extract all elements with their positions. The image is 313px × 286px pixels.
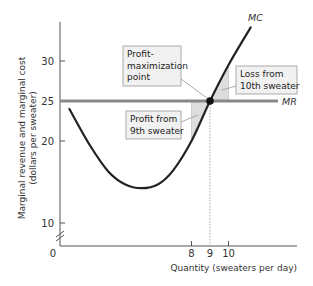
y-axis-title: Marginal revenue and marginal cost (doll… xyxy=(17,56,38,219)
x-ticks: 8910 xyxy=(188,241,235,259)
x-tick-label-10: 10 xyxy=(222,248,235,259)
callout-text-profit_max-2: point xyxy=(127,72,150,82)
origin-label: 0 xyxy=(50,248,56,259)
profit-maximization-point-marker xyxy=(206,97,214,105)
y-tick-label-25: 25 xyxy=(41,96,54,107)
x-tick-label-8: 8 xyxy=(188,248,194,259)
callout-text-loss_10th-0: Loss from xyxy=(240,69,284,79)
callout-text-profit_max-1: maximization xyxy=(127,61,188,71)
mr-label: MR xyxy=(282,96,297,107)
y-axis-title-line1: Marginal revenue and marginal cost xyxy=(17,56,27,219)
y-axis-title-line2: (dollars per sweater) xyxy=(28,91,38,185)
callout-leader-profit_max xyxy=(181,79,207,98)
y-tick-label-10: 10 xyxy=(41,218,54,229)
callout-text-profit_9th-1: 9th sweater xyxy=(130,126,184,136)
x-axis-title: Quantity (sweaters per day) xyxy=(170,263,297,273)
callout-text-loss_10th-1: 10th sweater xyxy=(240,81,300,91)
callout-text-profit_9th-0: Profit from xyxy=(130,114,177,124)
mr-mc-chart: 0 10202530 8910 Marginal revenue and mar… xyxy=(0,0,313,286)
y-tick-label-30: 30 xyxy=(41,56,54,67)
x-tick-label-9: 9 xyxy=(207,248,213,259)
y-ticks: 10202530 xyxy=(41,56,65,229)
callout-text-profit_max-0: Profit- xyxy=(127,49,154,59)
callouts: Profit-maximizationpointProfit from9th s… xyxy=(123,46,300,139)
y-tick-label-20: 20 xyxy=(41,136,54,147)
mc-label: MC xyxy=(248,12,263,23)
